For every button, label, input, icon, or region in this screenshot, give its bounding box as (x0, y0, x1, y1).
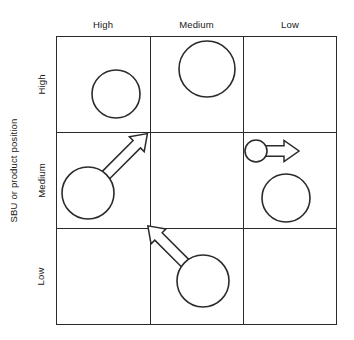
row-label-medium-text: Medium (36, 163, 47, 198)
cell-high-low[interactable] (244, 37, 336, 131)
column-header-high: High (56, 18, 150, 32)
cell-high-high[interactable] (57, 37, 149, 131)
row-label-low-text: Low (35, 268, 46, 286)
column-header-low: Low (243, 18, 337, 32)
y-axis-title: SBU or product position (0, 0, 28, 340)
cell-medium-high[interactable] (57, 133, 149, 227)
cell-low-medium[interactable] (151, 229, 242, 324)
y-axis-title-text: SBU or product position (9, 118, 20, 222)
row-label-high-text: High (35, 74, 46, 94)
row-label-high: High (30, 36, 52, 132)
cell-medium-medium[interactable] (151, 133, 242, 227)
cell-low-high[interactable] (57, 229, 149, 324)
column-header-medium: Medium (150, 18, 243, 32)
row-label-medium: Medium (30, 132, 52, 228)
row-label-low: Low (30, 228, 52, 325)
cell-low-low[interactable] (244, 229, 336, 324)
cell-medium-low[interactable] (244, 133, 336, 227)
cell-high-medium[interactable] (151, 37, 242, 131)
diagram-root: SBU or product position High Medium Low … (0, 0, 354, 340)
